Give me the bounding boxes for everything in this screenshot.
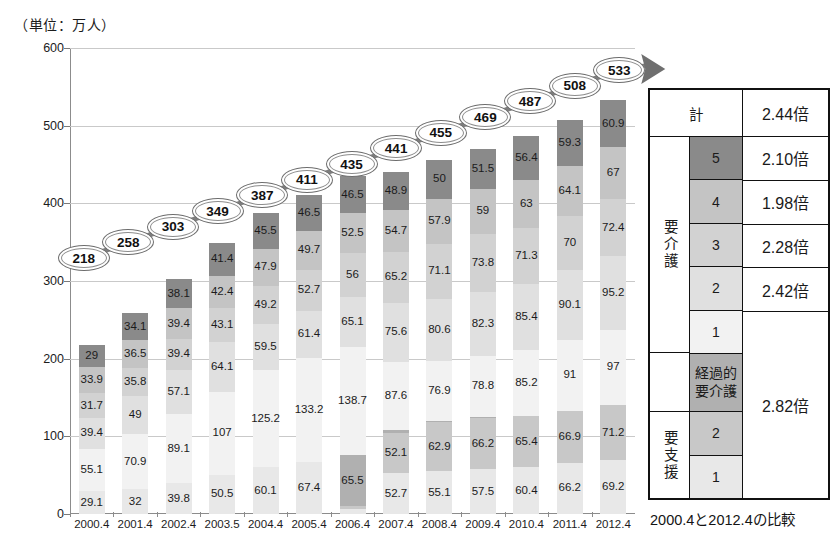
bar-segment-label: 75.6 xyxy=(385,326,407,338)
bar-segment: 0 xyxy=(470,417,496,418)
bar-segment-label: 66.9 xyxy=(559,431,581,443)
legend-group-column: 要介護要支援 xyxy=(650,137,690,498)
bar-segment: 133.2 xyxy=(296,358,322,461)
y-axis-tick-label: 500 xyxy=(24,119,64,133)
bar-segment-label: 59.5 xyxy=(254,341,276,353)
bar-segment-label: 50 xyxy=(433,174,446,186)
x-axis-tick-mark xyxy=(374,512,375,517)
bar-segment-label: 97 xyxy=(607,362,620,374)
bar-segment: 57.9 xyxy=(426,199,452,244)
y-axis-tick-label: 200 xyxy=(24,352,64,366)
comparison-caption: 2000.4と2012.4の比較 xyxy=(650,508,795,529)
bar-segment-label: 39.8 xyxy=(167,493,189,505)
bar-segment-label: 55.1 xyxy=(81,464,103,476)
x-axis-tick-mark xyxy=(287,512,288,517)
bar-segment: 52.7 xyxy=(383,473,409,514)
bar-segment: 60.9 xyxy=(600,100,626,147)
bar-segment: 4 xyxy=(383,430,409,433)
bar-segment-label: 60.4 xyxy=(515,485,537,497)
bar-segment: 66.2 xyxy=(557,463,583,514)
bar-segment-label: 52.1 xyxy=(385,447,407,459)
bar-segment-label: 67 xyxy=(607,168,620,180)
bar-segment-label: 107 xyxy=(213,427,232,439)
bar-segment: 85.2 xyxy=(513,350,539,416)
bar-segment: 32 xyxy=(122,489,148,514)
bar-segment: 97 xyxy=(600,330,626,405)
bar-segment-label: 63 xyxy=(520,198,533,210)
bar-segment: 65.1 xyxy=(340,297,366,348)
bar-segment: 62.9 xyxy=(426,422,452,471)
bar-segment: 64.1 xyxy=(209,342,235,392)
bar-segment-label: 39.4 xyxy=(167,318,189,330)
bar-segment: 66.9 xyxy=(557,411,583,463)
chart-page: （単位：万人） 0100200300400500600 29.155.139.4… xyxy=(0,0,838,544)
bar-segment: 61.4 xyxy=(296,311,322,359)
bar-segment: 95.2 xyxy=(600,256,626,330)
bar-segment: 71.1 xyxy=(426,244,452,299)
bar-segment-label: 39.4 xyxy=(81,428,103,440)
legend-total-row: 計 2.44倍 xyxy=(650,90,828,137)
bar-segment-label: 65.4 xyxy=(515,436,537,448)
bar-segment-label: 57.5 xyxy=(472,486,494,498)
plot-area: 0100200300400500600 29.155.139.431.733.9… xyxy=(70,48,635,514)
bar-segment-label: 48.9 xyxy=(385,185,407,197)
bar-segment: 56 xyxy=(340,253,366,296)
legend-total-label: 計 xyxy=(650,90,743,136)
bar-segment: 0.1 xyxy=(426,421,452,422)
bar-segment-label: 49.2 xyxy=(254,299,276,311)
legend-body: 要介護要支援54321経過的 要介護212.10倍1.98倍2.28倍2.42倍… xyxy=(650,137,828,498)
bar-segment-label: 87.6 xyxy=(385,390,407,402)
bar-segment-label: 43.1 xyxy=(211,319,233,331)
y-axis-tick-label: 0 xyxy=(24,507,64,521)
bar-segment-label: 56.4 xyxy=(515,152,537,164)
bar-segment: 57.5 xyxy=(470,469,496,514)
bar-column: 60.465.485.285.471.36356.4 xyxy=(513,136,539,514)
bar-segment: 57.1 xyxy=(166,370,192,414)
bar-segment-label: 52.7 xyxy=(298,284,320,296)
bar-segment: 5.9 xyxy=(340,509,366,514)
bar-column: 50.510764.143.142.441.4 xyxy=(209,243,235,514)
bar-segment: 38.1 xyxy=(166,279,192,309)
bar-segment-label: 70.9 xyxy=(124,456,146,468)
bar-segment-label: 49 xyxy=(129,409,142,421)
bar-segment-label: 64.1 xyxy=(559,185,581,197)
bar-segment-label: 31.7 xyxy=(81,400,103,412)
comparison-legend-table: 計 2.44倍 要介護要支援54321経過的 要介護212.10倍1.98倍2.… xyxy=(648,88,830,500)
bar-segment-label: 72.4 xyxy=(602,222,624,234)
bar-segment-label: 85.4 xyxy=(515,311,537,323)
bar-segment: 107 xyxy=(209,392,235,475)
bar-segment-label: 57.9 xyxy=(428,215,450,227)
bar-segment-label: 47.9 xyxy=(254,261,276,273)
bar-segment: 90.1 xyxy=(557,270,583,340)
x-axis-labels: 2000.42001.42002.42003.52004.42005.42006… xyxy=(70,518,635,538)
bar-segment: 69.2 xyxy=(600,460,626,514)
bar-segment-label: 38.1 xyxy=(167,288,189,300)
bar-segment-label: 41.4 xyxy=(211,254,233,266)
x-axis-tick-mark xyxy=(113,512,114,517)
bar-segment: 71.2 xyxy=(600,405,626,460)
bar-segment-label: 85.2 xyxy=(515,377,537,389)
bar-segment-label: 60.9 xyxy=(602,118,624,130)
x-axis-tick-label: 2008.4 xyxy=(418,518,461,530)
x-axis-tick-mark xyxy=(331,512,332,517)
bar-segment: 59.5 xyxy=(253,324,279,370)
bar-segment-label: 34.1 xyxy=(124,321,146,333)
bar-segment-label: 51.5 xyxy=(472,163,494,175)
x-axis-tick-mark xyxy=(548,512,549,517)
bar-column: 5.94.565.5138.765.15652.546.5 xyxy=(340,176,366,514)
bar-segment: 50.5 xyxy=(209,475,235,514)
legend-level-swatch: 1 xyxy=(690,311,742,354)
bar-segment-label: 91 xyxy=(563,370,576,382)
bar-segment: 65.4 xyxy=(513,416,539,467)
bar-segment-label: 62.9 xyxy=(428,441,450,453)
bar-segment: 65.5 xyxy=(340,455,366,506)
bar-segment-label: 66.2 xyxy=(559,483,581,495)
bar-segment-label: 82.3 xyxy=(472,318,494,330)
legend-level-swatch: 2 xyxy=(690,412,742,455)
legend-ratio-value: 2.42倍 xyxy=(743,268,828,312)
bar-segment-label: 59.3 xyxy=(559,137,581,149)
x-axis-tick-label: 2000.4 xyxy=(70,518,113,530)
bar-segment: 73.8 xyxy=(470,234,496,291)
bar-segment: 55.1 xyxy=(79,449,105,492)
bar-segment: 64.1 xyxy=(557,166,583,216)
